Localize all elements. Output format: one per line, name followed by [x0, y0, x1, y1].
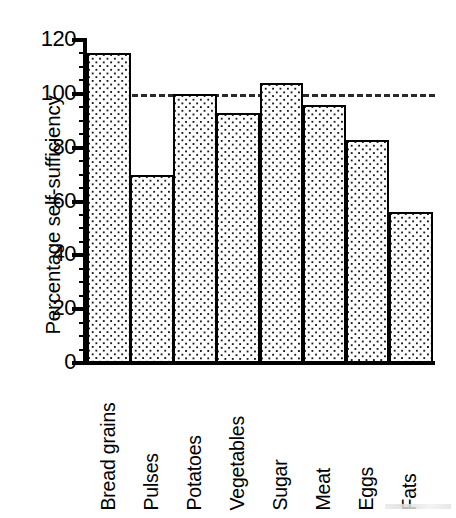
x-axis-category-labels: Bread grainsPulsesPotatoesVegetablesSuga…	[87, 366, 432, 518]
y-tick-minor-30	[79, 281, 87, 283]
x-label-slot-eggs: Eggs	[346, 366, 389, 518]
y-tick-minor-85	[79, 133, 87, 135]
x-label-slot-sugar: Sugar	[260, 366, 303, 518]
y-tick-minor-105	[79, 79, 87, 81]
scan-artifact	[385, 504, 451, 509]
y-tick-label-40: 40	[18, 243, 76, 265]
x-axis-label-bread-grains: Bread grains	[98, 402, 118, 510]
y-tick-major-100	[72, 92, 87, 96]
x-axis-label-potatoes: Potatoes	[184, 435, 204, 510]
y-tick-minor-90	[79, 120, 87, 122]
x-axis-label-meat: Meat	[314, 467, 334, 510]
bar-vegetables[interactable]	[216, 113, 260, 363]
x-label-slot-pulses: Pulses	[130, 366, 173, 518]
bar-bread-grains[interactable]	[87, 53, 131, 363]
y-tick-minor-65	[79, 187, 87, 189]
x-axis-label-eggs: Eggs	[357, 466, 377, 510]
x-axis-label-pulses: Pulses	[141, 453, 161, 510]
plot-area	[87, 40, 432, 363]
y-tick-minor-115	[79, 52, 87, 54]
x-label-slot-meat: Meat	[303, 366, 346, 518]
x-axis-label-vegetables: Vegetables	[227, 415, 247, 510]
bar-pulses[interactable]	[130, 175, 174, 363]
y-tick-major-40	[72, 253, 87, 257]
y-tick-major-20	[72, 307, 87, 311]
x-label-slot-vegetables: Vegetables	[216, 366, 259, 518]
y-tick-label-20: 20	[18, 297, 76, 319]
bar-fats[interactable]	[389, 212, 433, 363]
x-axis-label-sugar: Sugar	[271, 459, 291, 510]
y-tick-minor-25	[79, 295, 87, 297]
bar-sugar[interactable]	[260, 83, 304, 363]
y-tick-label-60: 60	[18, 190, 76, 212]
y-tick-minor-70	[79, 174, 87, 176]
x-label-slot-fats: Fats	[389, 366, 432, 518]
y-tick-major-0	[72, 361, 87, 365]
bar-potatoes[interactable]	[173, 94, 217, 363]
y-tick-minor-10	[79, 335, 87, 337]
y-tick-minor-95	[79, 106, 87, 108]
y-tick-label-0: 0	[18, 351, 76, 373]
y-tick-minor-75	[79, 160, 87, 162]
bar-meat[interactable]	[303, 105, 347, 363]
bar-eggs[interactable]	[346, 140, 390, 363]
y-tick-label-100: 100	[18, 82, 76, 104]
y-tick-label-120: 120	[18, 28, 76, 50]
bar-chart-figure: Percentage self-sufficiency 020406080100…	[0, 0, 456, 518]
x-label-slot-bread-grains: Bread grains	[87, 366, 130, 518]
y-tick-minor-35	[79, 268, 87, 270]
y-tick-major-120	[72, 38, 87, 42]
y-tick-minor-55	[79, 214, 87, 216]
y-tick-minor-15	[79, 322, 87, 324]
x-label-slot-potatoes: Potatoes	[173, 366, 216, 518]
y-tick-major-80	[72, 146, 87, 150]
y-tick-minor-50	[79, 227, 87, 229]
y-axis-tick-labels: 020406080100120	[0, 0, 76, 518]
y-tick-minor-5	[79, 349, 87, 351]
y-tick-minor-45	[79, 241, 87, 243]
y-tick-label-80: 80	[18, 136, 76, 158]
y-tick-minor-110	[79, 66, 87, 68]
y-tick-major-60	[72, 200, 87, 204]
